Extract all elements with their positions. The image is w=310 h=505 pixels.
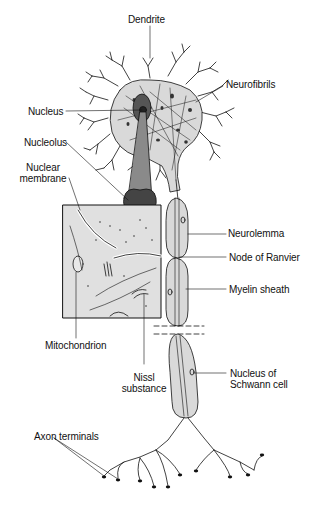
inset-magnified-view <box>63 205 161 318</box>
label-nucleus: Nucleus <box>28 106 63 117</box>
label-nucleolus: Nucleolus <box>24 137 67 148</box>
label-node-of-ranvier: Node of Ranvier <box>229 252 300 263</box>
label-dendrite: Dendrite <box>128 14 165 25</box>
label-nucleus-of-schwann-cell: Nucleus of Schwann cell <box>230 368 288 390</box>
label-myelin-sheath: Myelin sheath <box>229 284 289 295</box>
label-axon-terminals: Axon terminals <box>34 431 99 442</box>
label-nuclear-membrane: Nuclear membrane <box>18 162 68 184</box>
label-neurofibrils: Neurofibrils <box>226 79 275 90</box>
label-mitochondrion: Mitochondrion <box>45 340 107 351</box>
axon-terminals-branches <box>104 418 262 486</box>
label-nissl-substance: Nissl substance <box>118 372 170 394</box>
cell-body <box>110 80 202 192</box>
label-neurolemma: Neurolemma <box>228 228 284 239</box>
